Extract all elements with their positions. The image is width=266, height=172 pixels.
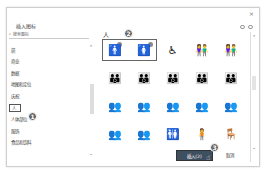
- meeting-icon[interactable]: 👥: [129, 124, 158, 144]
- group-5-icon[interactable]: 👥: [216, 96, 245, 116]
- wheelchair-icon[interactable]: ♿: [158, 40, 187, 60]
- couple-icon[interactable]: 👫: [187, 40, 216, 60]
- couple-2-icon[interactable]: 👫: [216, 40, 245, 60]
- crowd-icon[interactable]: 👥: [100, 124, 129, 144]
- category-item[interactable]: 箭: [9, 44, 89, 56]
- person-seated-icon[interactable]: 🪑: [216, 124, 245, 144]
- search-placeholder: 搜索图标: [13, 31, 29, 37]
- person-standing-icon[interactable]: 🧍: [187, 124, 216, 144]
- category-item[interactable]: 数据: [9, 67, 89, 79]
- scroll-thumb[interactable]: [90, 84, 94, 114]
- step-badge-2: 2: [124, 29, 133, 38]
- search-icon: ⌕: [9, 31, 11, 36]
- parent-child-3-icon[interactable]: 👪: [216, 68, 245, 88]
- category-item[interactable]: 庆祝: [9, 90, 89, 102]
- view-toggle: [240, 25, 253, 29]
- chevron-down-icon[interactable]: ⌄: [252, 144, 256, 150]
- family-2-icon[interactable]: 👪: [129, 68, 158, 88]
- category-item[interactable]: 服饰: [9, 125, 89, 137]
- parent-child-2-icon[interactable]: 👪: [187, 68, 216, 88]
- category-item[interactable]: 食品和饮料: [9, 137, 89, 149]
- man-icon[interactable]: 🚹: [100, 40, 129, 60]
- step-badge-1: 1: [28, 112, 37, 121]
- category-list: 箭 商业 数据 地图和定位 庆祝 人 人体部位 服饰 食品和饮料: [9, 44, 89, 156]
- icon-grid: 🚹 🚺 ♿ 👫 👫 👪 👪 👪 👪 👪 👥 👥 👥 👥 👥 👥 👥 🚻 🧍 🪑: [100, 40, 245, 144]
- category-item[interactable]: 人体部位: [9, 114, 89, 126]
- step-badge-3: 3: [210, 143, 219, 152]
- group-4-icon[interactable]: 👥: [187, 96, 216, 116]
- scroll-thumb[interactable]: [252, 76, 256, 90]
- restroom-icon[interactable]: 🚻: [158, 124, 187, 144]
- cancel-button[interactable]: 取消: [226, 152, 234, 158]
- category-item-selected[interactable]: 人: [9, 104, 21, 112]
- group-1-icon[interactable]: 👥: [100, 96, 129, 116]
- dialog-title: 插入图标: [16, 22, 36, 29]
- chevron-up-icon[interactable]: ⌃: [89, 44, 93, 50]
- chevron-down-icon[interactable]: ⌄: [89, 150, 93, 156]
- restore-icon[interactable]: [240, 25, 245, 29]
- group-2-icon[interactable]: 👥: [129, 96, 158, 116]
- section-title: 人: [103, 30, 109, 39]
- family-1-icon[interactable]: 👪: [100, 68, 129, 88]
- parent-child-1-icon[interactable]: 👪: [158, 68, 187, 88]
- category-scrollbar[interactable]: ⌃ ⌄: [89, 44, 95, 156]
- woman-icon[interactable]: 🚺: [129, 40, 158, 60]
- search-input[interactable]: ⌕ 搜索图标: [9, 29, 89, 39]
- hand-cursor-icon: ☝: [206, 154, 210, 162]
- icon-grid-scrollbar[interactable]: ⌃ ⌄: [250, 32, 256, 162]
- maximize-icon[interactable]: [248, 25, 253, 29]
- chevron-up-icon[interactable]: ⌃: [252, 34, 256, 40]
- close-icon[interactable]: ×: [249, 10, 254, 17]
- category-item[interactable]: 商业: [9, 56, 89, 68]
- group-3-icon[interactable]: 👥: [158, 96, 187, 116]
- category-item[interactable]: 地图和定位: [9, 79, 89, 91]
